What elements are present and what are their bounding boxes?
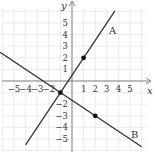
line-b — [0, 52, 142, 146]
line-b-label: B — [131, 129, 138, 140]
marked-point — [58, 90, 63, 95]
y-tick-label: 5 — [63, 18, 68, 28]
y-tick-label: 2 — [63, 53, 68, 63]
x-tick-label: 2 — [92, 84, 97, 94]
y-tick-label: −2 — [55, 99, 68, 109]
lines — [0, 11, 142, 147]
chart-container: −5−4−3−21234554321−2−3−4−5 y x A B — [0, 0, 157, 153]
x-tick-label: 4 — [116, 84, 121, 94]
y-tick-label: 3 — [63, 41, 68, 51]
x-tick-label: 3 — [104, 84, 109, 94]
marked-point — [93, 113, 98, 118]
y-tick-label: −5 — [55, 134, 68, 144]
y-tick-label: −3 — [55, 111, 68, 121]
y-axis-label: y — [60, 0, 67, 11]
x-axis-label: x — [147, 85, 153, 96]
x-tick-label: 1 — [81, 84, 86, 94]
y-tick-label: −4 — [55, 122, 68, 132]
coordinate-plane: −5−4−3−21234554321−2−3−4−5 y x A B — [0, 0, 157, 153]
marked-point — [81, 55, 86, 60]
y-tick-label: 4 — [63, 30, 68, 40]
grid — [2, 8, 146, 151]
x-tick-label: 5 — [127, 84, 132, 94]
line-a-label: A — [108, 25, 117, 36]
axes — [2, 1, 151, 152]
y-tick-label: 1 — [63, 64, 68, 74]
